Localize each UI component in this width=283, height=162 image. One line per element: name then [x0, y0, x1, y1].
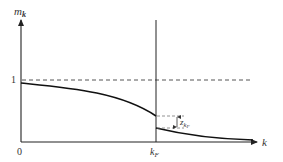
curve-above-fermi — [156, 128, 253, 140]
y-tick-label-one: 1 — [11, 74, 16, 85]
jump-label: zkF — [179, 117, 190, 129]
diagram-canvas: mk 1 0 kF k zkF — [0, 0, 283, 162]
origin-label: 0 — [17, 146, 22, 157]
x-axis-label: k — [262, 136, 268, 148]
fermi-momentum-label: kF — [150, 146, 159, 159]
y-axis-label: mk — [14, 5, 26, 19]
curve-below-fermi — [21, 83, 156, 116]
